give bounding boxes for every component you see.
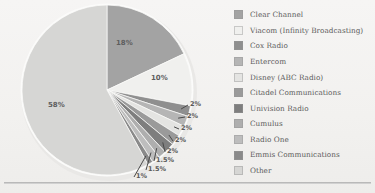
callout-percent-label: 2% bbox=[181, 124, 192, 132]
callout-percent-label: 2% bbox=[190, 100, 201, 108]
legend-item-label: Radio One bbox=[250, 136, 289, 143]
legend-item[interactable]: Cumulus bbox=[234, 116, 375, 132]
legend-item[interactable]: Other bbox=[234, 163, 375, 179]
legend-item-label: Univision Radio bbox=[250, 105, 309, 112]
legend-color-swatch bbox=[234, 119, 243, 128]
legend-item-label: Citadel Communications bbox=[250, 89, 341, 96]
callout-percent-label: 2% bbox=[167, 147, 178, 155]
legend-color-swatch bbox=[234, 135, 243, 144]
pie-chart-svg bbox=[4, 2, 226, 182]
slice-percent-label: 10% bbox=[151, 74, 168, 82]
legend-item-label: Viacom (Infinity Broadcasting) bbox=[250, 27, 363, 34]
legend-item-label: Other bbox=[250, 167, 271, 174]
legend-color-swatch bbox=[234, 57, 243, 66]
callout-percent-label: 1.5% bbox=[148, 165, 166, 173]
legend-color-swatch bbox=[234, 88, 243, 97]
legend-item[interactable]: Citadel Communications bbox=[234, 85, 375, 101]
callout-percent-label: 2% bbox=[187, 112, 198, 120]
legend-color-swatch bbox=[234, 104, 243, 113]
legend-item-label: Entercom bbox=[250, 58, 286, 65]
legend-item[interactable]: Disney (ABC Radio) bbox=[234, 69, 375, 85]
pie-chart-area: 18%10%58% 2%2%2%2%2%1.5%1.5%1% bbox=[0, 0, 228, 182]
legend-item[interactable]: Radio One bbox=[234, 132, 375, 148]
legend-item-label: Disney (ABC Radio) bbox=[250, 74, 323, 81]
legend-item[interactable]: Viacom (Infinity Broadcasting) bbox=[234, 23, 375, 39]
legend-color-swatch bbox=[234, 166, 243, 175]
chart-legend: Clear ChannelViacom (Infinity Broadcasti… bbox=[234, 7, 375, 179]
legend-item-label: Emmis Communications bbox=[250, 151, 340, 158]
legend-color-swatch bbox=[234, 151, 243, 160]
callout-percent-label: 2% bbox=[175, 136, 186, 144]
slice-percent-label: 58% bbox=[48, 101, 65, 109]
legend-item[interactable]: Emmis Communications bbox=[234, 147, 375, 163]
callout-percent-label: 1.5% bbox=[156, 156, 174, 164]
legend-color-swatch bbox=[234, 10, 243, 19]
legend-color-swatch bbox=[234, 41, 243, 50]
footer-divider bbox=[4, 182, 371, 184]
legend-item-label: Cumulus bbox=[250, 120, 283, 127]
legend-item[interactable]: Entercom bbox=[234, 54, 375, 70]
chart-page: 18%10%58% 2%2%2%2%2%1.5%1.5%1% Clear Cha… bbox=[0, 0, 375, 193]
legend-item[interactable]: Clear Channel bbox=[234, 7, 375, 23]
slice-percent-label: 18% bbox=[116, 39, 133, 47]
callout-percent-label: 1% bbox=[136, 172, 147, 180]
legend-item-label: Clear Channel bbox=[250, 11, 303, 18]
legend-item[interactable]: Cox Radio bbox=[234, 38, 375, 54]
legend-color-swatch bbox=[234, 26, 243, 35]
legend-item-label: Cox Radio bbox=[250, 42, 288, 49]
legend-color-swatch bbox=[234, 73, 243, 82]
legend-item[interactable]: Univision Radio bbox=[234, 101, 375, 117]
